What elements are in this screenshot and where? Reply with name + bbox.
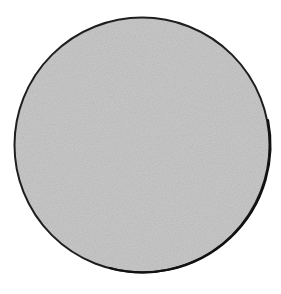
gray-circle [0, 0, 281, 294]
circle-fill [15, 18, 269, 272]
canvas [0, 0, 281, 294]
